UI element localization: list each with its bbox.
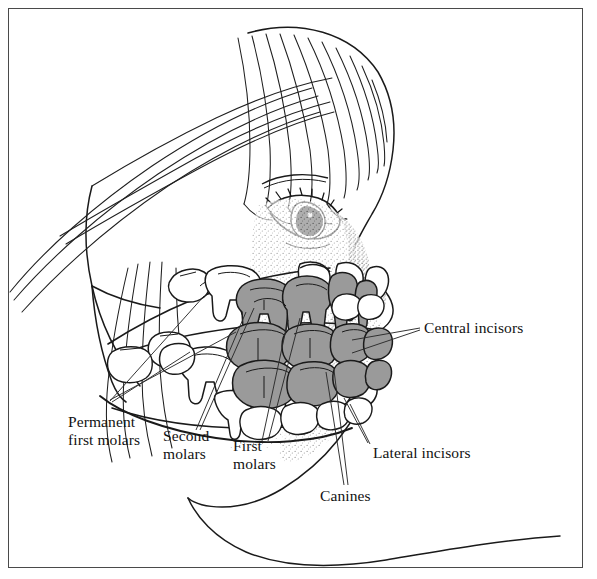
label-permanent-first-molars-line1: Permanent [68,413,135,430]
label-permanent-first-molars-line2: first molars [68,431,140,448]
label-central-incisors: Central incisors [424,319,523,337]
deciduous-teeth [227,273,393,409]
label-first-molars-line2: molars [233,455,276,472]
label-permanent-first-molars: Permanentfirst molars [68,413,140,448]
label-second-molars-line2: molars [163,445,206,462]
illustration-artwork [0,0,597,579]
label-second-molars-line1: Second [163,427,209,444]
label-lateral-incisors: Lateral incisors [373,444,471,462]
label-first-molars: Firstmolars [233,437,276,472]
label-second-molars: Secondmolars [163,427,209,462]
label-first-molars-line1: First [233,437,262,454]
label-canines: Canines [320,487,371,505]
dental-illustration-figure: Central incisors Lateral incisors Canine… [0,0,597,579]
